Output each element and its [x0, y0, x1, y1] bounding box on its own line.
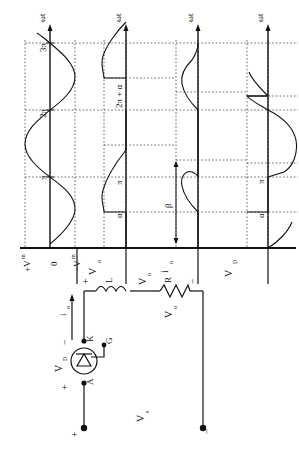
tick-gridlines-output-current: [176, 43, 247, 212]
time-axis-arrow-device-voltage: [266, 24, 271, 31]
vs-circuit-text: V: [135, 414, 146, 422]
label-resistor: R: [163, 277, 173, 283]
label-alpha-vd: α: [256, 213, 266, 218]
plot-device-voltage: [247, 24, 298, 248]
vo-ind-text: V: [137, 277, 148, 285]
vd-circuit-sub: D: [62, 356, 68, 361]
label-plus-vm: +V m: [20, 254, 32, 272]
label-inductor: L: [104, 278, 114, 284]
label-beta: β: [163, 203, 173, 208]
label-vo-axis: V o: [87, 260, 102, 275]
label-minus-terminal: −: [201, 428, 212, 434]
tick-gridlines-output-voltage: [104, 43, 176, 212]
terminal-positive: [81, 425, 87, 431]
time-axis-arrow-source: [48, 24, 53, 31]
time-axis-arrow-output-current: [196, 24, 201, 31]
label-cathode: K: [85, 335, 95, 342]
tick-label-2pi: 2π: [38, 109, 48, 119]
gridlines: [25, 40, 268, 248]
time-axis-arrow-output-voltage: [124, 24, 129, 31]
label-io-circuit: i o: [58, 306, 71, 316]
circuit-diagram: i o + L V o R − V o: [53, 273, 212, 437]
wt-axis-labels: ωt ωt ωt ωt: [37, 13, 265, 22]
label-anode: A: [85, 378, 95, 385]
label-2pi-plus-alpha-vo: 2π + α: [114, 84, 124, 108]
label-zero: 0: [49, 261, 59, 266]
label-gate: G: [104, 337, 114, 344]
curve-output-voltage-pulse-2: [102, 22, 126, 78]
label-vo-inductor: V o: [137, 273, 152, 285]
curve-device-voltage-block-4: [247, 72, 268, 96]
label-vd-circuit: V D: [53, 356, 68, 372]
label-minus-resistor: −: [187, 278, 198, 284]
curve-output-current-pulse-1: [182, 172, 198, 212]
tick-label-3pi: 3π: [38, 43, 48, 53]
circuit-labels: i o + L V o R − V o: [53, 273, 212, 437]
label-io-axis: i o: [159, 261, 174, 273]
vo-axis-sub: o: [96, 260, 102, 263]
curve-output-voltage-pulse-1: [102, 145, 126, 212]
vo-ind-sub: o: [146, 273, 152, 276]
wt-label-device-voltage: ωt: [255, 13, 265, 22]
io-circuit-text: i: [58, 313, 68, 316]
plot-output-voltage: [102, 22, 176, 248]
io-axis-sub: o: [168, 261, 174, 264]
curve-device-voltage-block-2: [268, 110, 297, 177]
waveform-group: ωt ωt ωt ωt π 2π 3π α π 2π + α β α: [20, 13, 298, 284]
plus-vm-text: +V: [22, 260, 32, 272]
wt-label-source: ωt: [37, 13, 47, 22]
minus-vm-sub: m: [70, 254, 76, 259]
label-plus-anode: +: [59, 384, 70, 390]
label-vo-resistor: V o: [163, 306, 178, 318]
output-voltage-angle-labels: α π 2π + α: [114, 84, 124, 218]
label-pi-vo: π: [114, 180, 124, 185]
label-plus-inductor: +: [80, 278, 91, 284]
thyristor-triangle: [77, 354, 91, 366]
io-axis-text: i: [159, 270, 170, 273]
curve-output-current-pulse-2: [182, 43, 198, 110]
io-circuit-sub: o: [65, 306, 71, 309]
beta-dimension-arrow: [174, 161, 179, 244]
vo-res-sub: o: [172, 306, 178, 309]
plus-vm-sub: m: [20, 254, 26, 259]
label-pi-vd: π: [256, 179, 266, 184]
label-minus-vm: −V m: [70, 254, 82, 272]
tick-label-pi: π: [38, 175, 48, 180]
inductor-symbol: [96, 287, 126, 292]
plot-output-current: [174, 24, 248, 248]
label-plus-terminal: +: [69, 431, 80, 437]
vs-circuit-sub: s: [144, 410, 150, 413]
wt-label-output-voltage: ωt: [113, 13, 123, 22]
vd-axis-text: V: [223, 269, 234, 277]
resistor-symbol: [160, 285, 190, 297]
thyristor-circuit-and-waveforms-figure: ωt ωt ωt ωt π 2π 3π α π 2π + α β α: [0, 0, 299, 452]
curve-device-voltage-block-3: [247, 96, 268, 110]
vo-res-text: V: [163, 310, 174, 318]
thyristor-envelope: [71, 348, 97, 374]
plot-source-voltage: [25, 24, 104, 248]
source-tick-labels: π 2π 3π: [38, 43, 48, 181]
curve-device-voltage-block-1: [247, 212, 292, 248]
thyristor-symbol: [71, 343, 106, 374]
vo-axis-text: V: [87, 267, 98, 275]
figure-canvas: ωt ωt ωt ωt π 2π 3π α π 2π + α β α: [0, 0, 299, 452]
label-alpha-vo: α: [114, 213, 124, 218]
current-arrow-io: [70, 294, 75, 340]
label-minus-cathode: −: [59, 339, 70, 345]
label-vd-axis: V D: [223, 259, 238, 277]
vd-circuit-text: V: [53, 364, 64, 372]
tick-gridlines-source: [25, 43, 104, 177]
label-vs-circuit: V s: [135, 410, 150, 422]
vd-axis-sub: D: [232, 259, 238, 264]
wt-label-output-current: ωt: [185, 13, 195, 22]
circuit-wires: [84, 291, 203, 427]
